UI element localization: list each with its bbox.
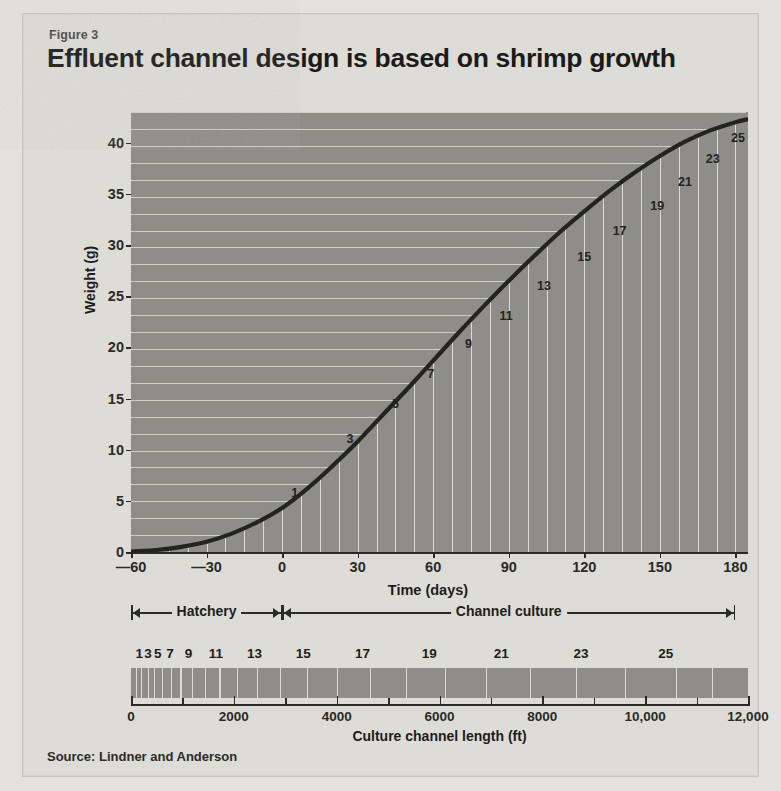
y-axis-tick-label: 30: [98, 237, 124, 253]
growth-curve: [131, 112, 748, 552]
y-axis-tick-label: 20: [98, 339, 124, 355]
length-axis-tick: [542, 696, 544, 706]
curve-point-label: 5: [392, 397, 399, 411]
length-axis-title: Culture channel length (ft): [131, 728, 748, 744]
y-axis-tick-label: 10: [98, 442, 124, 458]
y-axis-tick-label: 5: [98, 493, 124, 509]
phase-arrow-icon: [133, 608, 140, 618]
channel-section-number: 5: [154, 646, 162, 661]
channel-segment-divider: [141, 668, 142, 698]
channel-section-number: 13: [247, 646, 262, 661]
length-axis-minor-tick: [491, 698, 493, 706]
phase-end-cap: [734, 605, 736, 620]
channel-section-number: 9: [185, 646, 193, 661]
section-numbers: 135791113151719212325: [131, 646, 748, 666]
x-axis-tick-label: 90: [501, 559, 517, 575]
channel-length-strip: 135791113151719212325 020004000600080001…: [131, 646, 748, 756]
curve-point-label: 9: [465, 337, 472, 351]
length-axis-tick-label: 2000: [219, 709, 249, 724]
channel-segment-divider: [337, 668, 338, 698]
curve-point-label: 23: [706, 152, 720, 166]
y-axis-tick-label: 0: [98, 544, 124, 560]
x-axis-tick-label: —60: [116, 559, 147, 575]
channel-section-number: 21: [494, 646, 509, 661]
x-axis-tick: [358, 552, 360, 558]
channel-section-number: 7: [166, 646, 174, 661]
channel-section-number: 15: [296, 646, 311, 661]
channel-segment-divider: [576, 668, 577, 698]
length-axis-tick: [440, 696, 442, 706]
channel-segment-bar: [131, 668, 748, 698]
channel-segment-divider: [370, 668, 371, 698]
channel-segment-divider: [676, 668, 677, 698]
x-axis-tick: [207, 552, 209, 558]
x-axis-tick-label: 60: [425, 559, 441, 575]
curve-point-label: 21: [678, 175, 692, 189]
length-axis-tick-label: 8000: [527, 709, 557, 724]
source-note: Source: Lindner and Anderson: [47, 749, 237, 764]
phase-label: Channel culture: [451, 603, 567, 619]
x-axis-line: [131, 552, 748, 554]
length-axis-tick-label: 10,000: [625, 709, 666, 724]
x-axis-tick: [735, 552, 737, 558]
x-axis-tick: [509, 552, 511, 558]
phase-band: HatcheryChannel culture: [131, 602, 748, 624]
length-axis-tick: [748, 696, 750, 706]
y-axis-title: Weight (g): [82, 246, 98, 314]
curve-point-label: 17: [613, 224, 627, 238]
channel-section-number: 17: [355, 646, 370, 661]
length-axis-minor-tick: [388, 698, 390, 706]
curve-point-label: 19: [650, 199, 664, 213]
x-axis-tick: [282, 552, 284, 558]
y-axis-tick-label: 15: [98, 391, 124, 407]
phase-arrow-icon: [726, 608, 733, 618]
curve-point-label: 25: [731, 131, 745, 145]
channel-segment-divider: [712, 668, 713, 698]
curve-point-label: 1: [291, 486, 298, 500]
channel-segment-divider: [180, 668, 181, 698]
page-title: Effluent channel design is based on shri…: [47, 43, 676, 74]
x-axis-tick-label: 120: [572, 559, 596, 575]
x-axis-tick-label: 30: [350, 559, 366, 575]
channel-section-number: 19: [422, 646, 437, 661]
x-axis-title: Time (days): [98, 582, 758, 598]
curve-point-label: 13: [537, 279, 551, 293]
channel-segment-divider: [171, 668, 172, 698]
channel-segment-divider: [625, 668, 626, 698]
length-axis-tick-label: 6000: [424, 709, 454, 724]
length-axis-minor-tick: [697, 698, 699, 706]
length-axis-tick-label: 0: [127, 709, 135, 724]
curve-point-label: 7: [427, 367, 434, 381]
channel-segment-divider: [486, 668, 487, 698]
curve-point-label: 3: [347, 432, 354, 446]
length-axis-tick: [337, 696, 339, 706]
y-axis-tick-label: 25: [98, 288, 124, 304]
length-axis-tick: [234, 696, 236, 706]
x-axis-tick: [584, 552, 586, 558]
length-axis-minor-tick: [285, 698, 287, 706]
channel-segment-divider: [530, 668, 531, 698]
channel-segment-divider: [219, 668, 220, 698]
x-axis-tick: [660, 552, 662, 558]
phase-arrow-icon: [273, 608, 280, 618]
channel-segment-divider: [136, 668, 137, 698]
length-axis-minor-tick: [594, 698, 596, 706]
x-axis-tick-label: 0: [278, 559, 286, 575]
x-axis-tick-label: 150: [648, 559, 672, 575]
channel-segment-divider: [205, 668, 206, 698]
figure-number: Figure 3: [49, 28, 98, 42]
growth-chart: Weight (g) 0510152025303540 135791113151…: [98, 104, 758, 564]
curve-point-label: 11: [500, 309, 513, 323]
phase-label: Hatchery: [172, 603, 242, 619]
channel-section-number: 11: [209, 646, 223, 661]
length-axis-tick: [131, 696, 133, 706]
x-axis-tick: [433, 552, 435, 558]
figure-card: Figure 3 Effluent channel design is base…: [22, 13, 759, 777]
length-axis-minor-tick: [182, 698, 184, 706]
channel-segment-divider: [257, 668, 258, 698]
curve-point-label: 15: [577, 250, 591, 264]
y-axis-tick-label: 40: [98, 135, 124, 151]
channel-segment-divider: [307, 668, 308, 698]
length-axis-tick: [645, 696, 647, 706]
x-axis-tick: [131, 552, 133, 558]
